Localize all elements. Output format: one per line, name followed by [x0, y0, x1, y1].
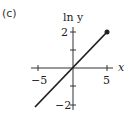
endpoint-marker [105, 30, 110, 35]
x-axis-label: x [118, 61, 125, 74]
y-axis-label: ln y [63, 11, 84, 24]
x-tick-label--5: −5 [31, 74, 47, 87]
chart: ln y x −5 5 2 −2 [0, 0, 132, 122]
data-line [35, 32, 107, 107]
x-tick-label-5: 5 [103, 74, 110, 87]
y-tick-label-2: 2 [61, 26, 68, 39]
y-tick-label--2: −2 [55, 99, 71, 112]
